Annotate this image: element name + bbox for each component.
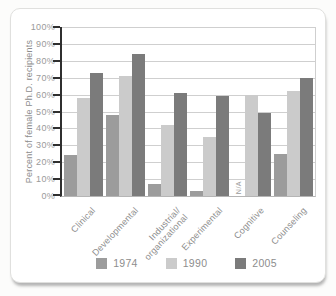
bar-1990: [77, 98, 90, 196]
y-axis-tick: [53, 60, 60, 62]
bar-2005: [258, 113, 271, 196]
bar-2005: [174, 93, 187, 196]
legend-label: 1974: [113, 257, 138, 269]
bar-1974: [274, 154, 287, 196]
legend: 197419902005: [60, 256, 313, 270]
bar-1990: [161, 125, 174, 196]
gridline: [62, 44, 315, 45]
y-axis-tick: [53, 43, 60, 45]
na-label: N/A: [235, 181, 242, 194]
bar-1990: [287, 91, 300, 196]
x-axis-labels: ClinicalDevelopmentalIndustrial/ organiz…: [60, 200, 313, 258]
y-axis-tick: [53, 127, 60, 129]
x-axis-label: Developmental: [91, 206, 141, 259]
legend-swatch: [235, 258, 246, 269]
bar-2005: [132, 54, 145, 196]
bar-2005: [216, 96, 229, 196]
bar-1990: [203, 137, 216, 196]
x-axis-label: Industrial/ organizational: [135, 206, 190, 263]
legend-swatch: [96, 258, 107, 269]
bar-1974: [106, 115, 119, 196]
y-axis-tick: [53, 194, 60, 196]
legend-label: 1990: [183, 257, 208, 269]
bar-1974: [148, 184, 161, 196]
chart-card: Percent of female Ph.D. recipients 0%10%…: [10, 8, 326, 283]
y-axis-tick: [53, 111, 60, 113]
x-axis-label: Counseling: [270, 206, 309, 247]
legend-item: 1990: [166, 257, 208, 269]
x-axis-label: Experimental: [180, 206, 225, 253]
legend-swatch: [166, 258, 177, 269]
y-axis-tick: [53, 26, 60, 28]
legend-label: 2005: [252, 257, 277, 269]
legend-item: 2005: [235, 257, 277, 269]
x-axis-label: Cognitive: [233, 206, 267, 242]
gridline: [62, 27, 315, 28]
y-axis-tick: [53, 178, 60, 180]
y-axis-tick-labels: 0%10%20%30%40%50%60%70%80%90%100%: [19, 27, 55, 196]
bar-1974: [64, 155, 77, 196]
bar-1990: [119, 76, 132, 196]
y-axis-tick: [53, 144, 60, 146]
bar-2005: [90, 73, 103, 196]
bar-2005: [300, 78, 313, 196]
plot-area: N/A: [60, 27, 316, 197]
y-axis-tick: [53, 94, 60, 96]
y-axis-tick: [53, 161, 60, 163]
bar-1974: [190, 191, 203, 196]
x-axis-label: Clinical: [70, 206, 98, 235]
gridline: [62, 61, 315, 62]
legend-item: 1974: [96, 257, 138, 269]
y-tick-label: 100%: [31, 22, 55, 32]
y-tick-label: 0%: [41, 191, 55, 201]
y-axis-tick: [53, 77, 60, 79]
bar-1990: [245, 95, 258, 196]
